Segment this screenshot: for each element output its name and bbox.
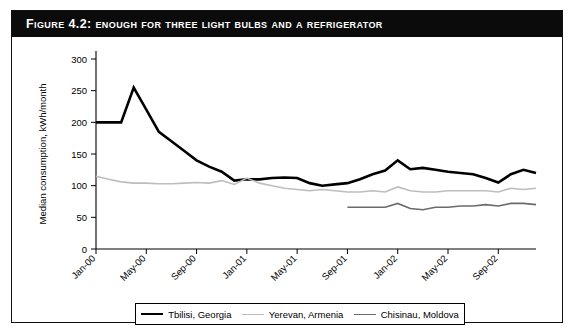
- legend-item-0[interactable]: Tbilisi, Georgia: [141, 309, 231, 320]
- y-tick-label: 0: [82, 244, 87, 255]
- legend-swatch-icon: [141, 313, 163, 315]
- series-line-2: [347, 203, 536, 209]
- series-line-0: [96, 88, 536, 186]
- y-tick-label: 300: [71, 54, 87, 65]
- y-axis-title: Median consumption, kWh/month: [37, 84, 48, 225]
- chart-plot-area: 050100150200250300Jan-00May-00Sep-00Jan-…: [12, 37, 562, 324]
- y-tick-label: 50: [76, 212, 87, 223]
- legend-item-2[interactable]: Chisinau, Moldova: [354, 309, 459, 320]
- y-tick-label: 200: [71, 117, 87, 128]
- y-tick-label: 250: [71, 85, 87, 96]
- legend-swatch-icon: [354, 314, 376, 315]
- legend-item-1[interactable]: Yerevan, Armenia: [242, 309, 344, 320]
- legend-label: Chisinau, Moldova: [381, 309, 459, 320]
- figure-title-bar: Figure 4.2: Enough for Three Light Bulbs…: [12, 11, 562, 37]
- legend-label: Yerevan, Armenia: [269, 309, 344, 320]
- x-tick-label: May-01: [268, 253, 298, 283]
- chart-legend: Tbilisi, GeorgiaYerevan, ArmeniaChisinau…: [135, 303, 465, 325]
- x-tick-label: Jan-02: [371, 253, 399, 281]
- figure-title: Figure 4.2: Enough for Three Light Bulbs…: [12, 17, 383, 31]
- x-tick-label: Jan-00: [69, 253, 97, 281]
- x-tick-label: May-02: [419, 253, 449, 283]
- legend-label: Tbilisi, Georgia: [168, 309, 231, 320]
- x-tick-label: Sep-00: [169, 253, 198, 282]
- x-tick-label: Sep-02: [470, 253, 499, 282]
- figure-frame: Figure 4.2: Enough for Three Light Bulbs…: [11, 10, 563, 323]
- line-chart: 050100150200250300Jan-00May-00Sep-00Jan-…: [12, 37, 564, 324]
- y-tick-label: 150: [71, 149, 87, 160]
- legend-swatch-icon: [242, 314, 264, 315]
- x-tick-label: Sep-01: [319, 253, 348, 282]
- x-tick-label: May-00: [118, 253, 148, 283]
- x-tick-label: Jan-01: [220, 253, 248, 281]
- y-tick-label: 100: [71, 180, 87, 191]
